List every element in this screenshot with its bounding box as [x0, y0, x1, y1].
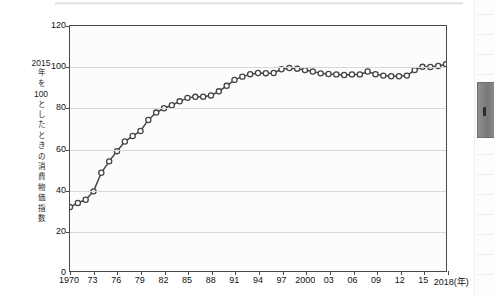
series-data-point	[349, 72, 354, 77]
series-data-point	[310, 69, 315, 74]
y-axis-tick-mark	[66, 232, 70, 233]
x-axis-tick-label: 03	[324, 275, 334, 285]
series-data-point	[326, 71, 331, 76]
plot-area	[69, 25, 447, 272]
series-data-point	[154, 110, 159, 115]
scan-artifact-line	[477, 34, 493, 35]
x-axis-tick-label: 91	[229, 275, 239, 285]
side-navigation-tab[interactable]	[477, 82, 494, 138]
series-data-point	[357, 72, 362, 77]
series-data-point	[404, 73, 409, 78]
y-axis-tick-mark	[66, 67, 70, 68]
scan-artifact-line	[477, 14, 493, 15]
series-data-point	[185, 95, 190, 100]
y-axis-tick-labels: 020406080100120	[36, 0, 66, 296]
x-axis-tick-label: 15	[418, 275, 428, 285]
series-data-point	[177, 99, 182, 104]
horizontal-gridline	[70, 150, 446, 151]
scan-artifact-line	[477, 194, 493, 195]
scan-artifact-line	[477, 234, 493, 235]
x-axis-tick-label: 97	[277, 275, 287, 285]
cpi-series-line	[70, 26, 446, 271]
scan-artifact-line	[477, 154, 493, 155]
x-axis-tick-label: 1970	[59, 275, 79, 285]
horizontal-gridline	[70, 232, 446, 233]
x-axis-tick-label: 2018(年)	[434, 275, 469, 288]
series-data-point	[389, 74, 394, 79]
y-axis-tick-mark	[66, 26, 70, 27]
x-axis-tick-label: 12	[395, 275, 405, 285]
horizontal-gridline	[70, 108, 446, 109]
x-axis-tick-label: 94	[253, 275, 263, 285]
series-data-point	[365, 69, 370, 74]
series-data-point	[99, 170, 104, 175]
page-right-margin-strip	[474, 0, 494, 296]
x-axis-tick-label: 79	[135, 275, 145, 285]
scan-artifact-line	[477, 54, 493, 55]
series-data-point	[396, 74, 401, 79]
series-polyline	[70, 64, 446, 207]
series-data-point	[412, 68, 417, 73]
series-data-point	[208, 93, 213, 98]
y-axis-tick-label: 40	[40, 185, 66, 195]
series-data-point	[122, 139, 127, 144]
y-axis-tick-label: 80	[40, 102, 66, 112]
plot-inner	[70, 26, 446, 271]
series-data-point	[302, 68, 307, 73]
series-data-point	[107, 159, 112, 164]
horizontal-gridline	[70, 67, 446, 68]
scan-artifact-line	[477, 274, 493, 275]
scan-artifact-line	[477, 174, 493, 175]
x-axis-tick-label: 76	[111, 275, 121, 285]
y-axis-tick-mark	[66, 108, 70, 109]
x-axis-tick-label: 73	[88, 275, 98, 285]
series-data-point	[201, 94, 206, 99]
y-axis-tick-mark	[66, 150, 70, 151]
x-axis-tick-label: 88	[206, 275, 216, 285]
series-data-point	[255, 70, 260, 75]
x-axis-tick-label: 06	[347, 275, 357, 285]
scan-artifact-line	[477, 254, 493, 255]
cpi-line-chart-figure: 2015年を100としたときの消費物価指数 020406080100120 19…	[0, 0, 470, 296]
series-data-point	[443, 62, 446, 67]
x-axis-tick-label: 09	[371, 275, 381, 285]
series-data-point	[130, 133, 135, 138]
series-data-point	[169, 103, 174, 108]
y-axis-tick-label: 60	[40, 144, 66, 154]
series-data-point	[271, 70, 276, 75]
series-data-point	[193, 94, 198, 99]
series-data-point	[342, 72, 347, 77]
series-data-point	[224, 83, 229, 88]
series-data-point	[318, 71, 323, 76]
x-axis-tick-label: 2000	[295, 275, 315, 285]
series-data-point	[75, 200, 80, 205]
x-axis-tick-label: 82	[158, 275, 168, 285]
y-axis-tick-label: 120	[40, 20, 66, 30]
series-data-point	[70, 205, 73, 210]
series-data-point	[138, 128, 143, 133]
scan-artifact-line	[477, 74, 493, 75]
y-axis-tick-label: 100	[40, 61, 66, 71]
series-data-point	[334, 72, 339, 77]
series-data-point	[373, 72, 378, 77]
chevron-right-icon	[483, 107, 486, 116]
series-data-point	[381, 73, 386, 78]
series-data-point	[263, 71, 268, 76]
scan-artifact-line	[477, 214, 493, 215]
series-data-point	[232, 77, 237, 82]
y-axis-tick-mark	[66, 191, 70, 192]
x-axis-tick-labels: 1970737679828588919497200003060912152018…	[69, 275, 447, 293]
series-data-point	[83, 197, 88, 202]
horizontal-gridline	[70, 191, 446, 192]
series-data-point	[146, 117, 151, 122]
series-data-point	[248, 72, 253, 77]
series-data-point	[216, 89, 221, 94]
x-axis-tick-label: 85	[182, 275, 192, 285]
y-axis-tick-label: 20	[40, 226, 66, 236]
series-data-point	[240, 74, 245, 79]
